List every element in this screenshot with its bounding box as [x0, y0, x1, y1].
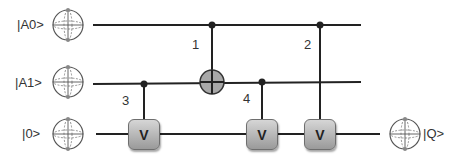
- input-label-a0: |A0>: [17, 18, 44, 31]
- input-label-ancilla: |0>: [22, 127, 40, 140]
- gate3-control-dot: [141, 81, 148, 88]
- v-gate-4: V: [246, 119, 278, 150]
- gate2-control-dot: [317, 22, 324, 29]
- quantum-circuit: [0, 0, 461, 160]
- gate4-control-dot: [259, 79, 266, 86]
- gate1-control-dot: [209, 22, 216, 29]
- output-label-q: |Q>: [423, 127, 444, 140]
- bloch-sphere-icon: [53, 117, 83, 151]
- v-gate-3: V: [128, 119, 160, 150]
- step-label-4: 4: [243, 92, 250, 105]
- input-label-a1: |A1>: [15, 76, 42, 89]
- bloch-sphere-icon: [53, 8, 83, 42]
- step-label-2: 2: [304, 38, 311, 51]
- step-label-3: 3: [122, 94, 129, 107]
- bloch-sphere-icon: [53, 65, 83, 99]
- v-gate-2: V: [304, 119, 336, 150]
- step-label-1: 1: [192, 38, 199, 51]
- bloch-sphere-icon: [390, 117, 420, 151]
